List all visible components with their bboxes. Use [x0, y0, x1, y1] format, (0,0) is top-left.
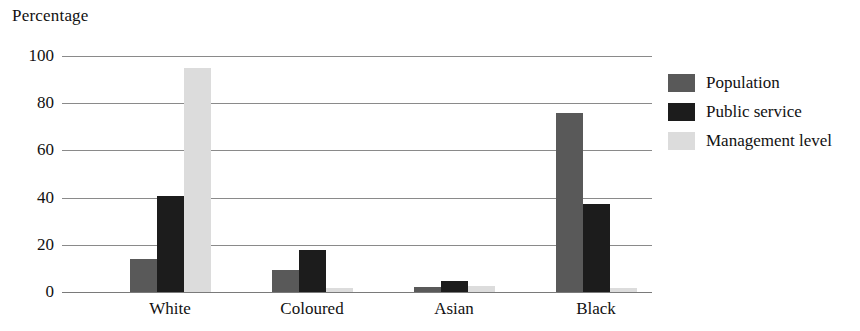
legend-swatch-icon	[668, 103, 695, 121]
plot-area	[62, 56, 652, 292]
y-axis-tick-label: 20	[8, 236, 54, 253]
x-axis-category-label: White	[100, 300, 240, 318]
bar	[414, 287, 441, 292]
bar	[556, 113, 583, 292]
bar	[583, 204, 610, 293]
bar	[610, 288, 637, 292]
gridline	[62, 292, 652, 293]
bar-group	[414, 56, 495, 292]
legend-item: Management level	[668, 126, 858, 155]
legend-item: Population	[668, 68, 858, 97]
x-axis-category-label: Asian	[384, 300, 524, 318]
bar	[468, 286, 495, 292]
bar	[441, 281, 468, 292]
y-axis-tick-labels: 020406080100	[0, 56, 54, 292]
x-axis-category-label: Coloured	[242, 300, 382, 318]
x-axis-category-label: Black	[526, 300, 666, 318]
bar	[326, 288, 353, 292]
legend-swatch-icon	[668, 132, 695, 150]
y-axis-tick-label: 80	[8, 94, 54, 111]
y-axis-title: Percentage	[12, 6, 89, 26]
bar-group	[130, 56, 211, 292]
y-axis-tick-label: 40	[8, 189, 54, 206]
bar	[299, 250, 326, 292]
legend-swatch-icon	[668, 74, 695, 92]
bar-group	[272, 56, 353, 292]
y-axis-tick-label: 60	[8, 141, 54, 158]
bar-chart-figure: Percentage 020406080100 PopulationPublic…	[0, 0, 860, 331]
bar	[272, 270, 299, 292]
legend-label: Public service	[706, 102, 802, 121]
legend-label: Management level	[706, 131, 832, 150]
legend-item: Public service	[668, 97, 858, 126]
bar	[157, 196, 184, 292]
y-axis-tick-label: 100	[8, 47, 54, 64]
bar	[184, 68, 211, 292]
y-axis-tick-label: 0	[8, 283, 54, 300]
bar-group	[556, 56, 637, 292]
legend-label: Population	[706, 73, 780, 92]
chart-legend: PopulationPublic serviceManagement level	[668, 68, 858, 155]
bar	[130, 259, 157, 292]
